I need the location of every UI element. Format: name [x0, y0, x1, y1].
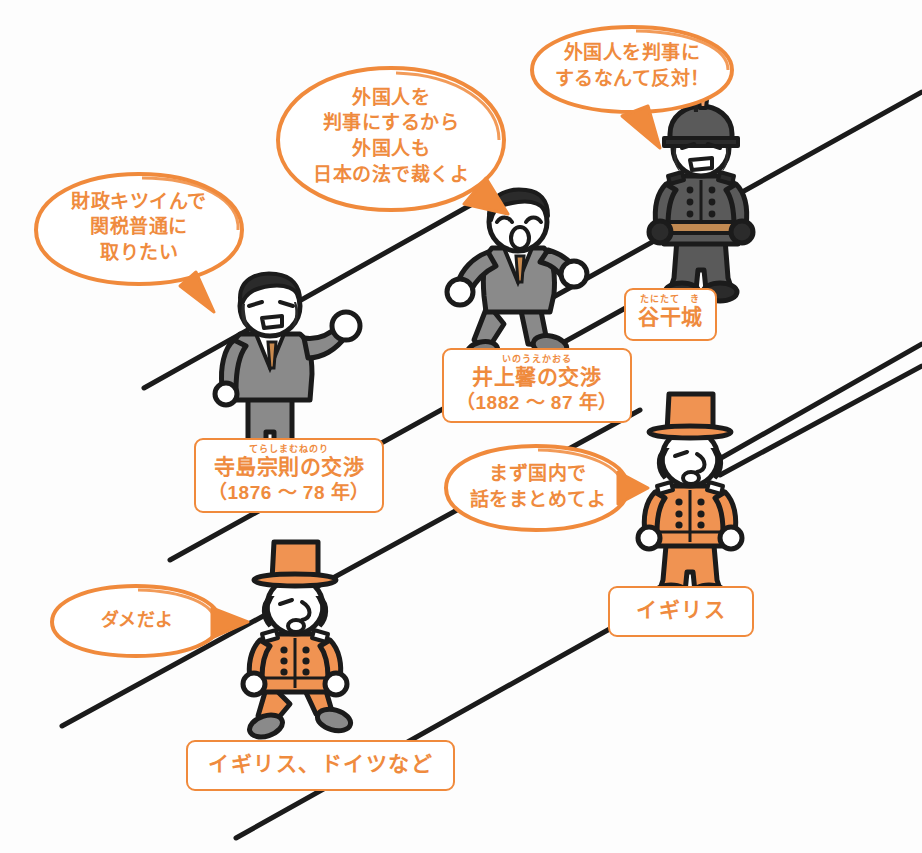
speech-bubble-dame-text: ダメだよ [95, 608, 180, 632]
label-terashima-furigana: てらしまむねのり [208, 445, 370, 454]
label-tani-main: 谷干城 [638, 305, 703, 330]
speech-bubble-tariff-text: 財政キツイんで 関税普通に 取りたい [65, 189, 213, 266]
speech-bubble-domestic-text: まず国内で 話をまとめてよ [464, 461, 613, 512]
label-terashima-main: 寺島宗則の交渉 [208, 455, 370, 480]
speech-bubble-oppose: 外国人を判事に するなんて反対！ [526, 22, 738, 110]
diagram-canvas: 財政キツイんで 関税普通に 取りたい 外国人を 判事にするから 外国人も 日本の… [0, 0, 922, 853]
speech-bubble-judge-text: 外国人を 判事にするから 外国人も 日本の法で裁くよ [307, 85, 475, 188]
figure-britain-germany [243, 542, 353, 741]
label-terashima: てらしまむねのり 寺島宗則の交渉 （1876 〜 78 年） [194, 438, 384, 513]
label-inoue-sub: （1882 〜 87 年） [456, 392, 618, 414]
label-igirisu: イギリス [608, 586, 754, 637]
label-igirisu-main: イギリス [636, 598, 726, 623]
label-inoue-furigana: いのうえかおる [456, 355, 618, 364]
label-tani-furigana: たにたて き [638, 295, 703, 304]
label-terashima-sub: （1876 〜 78 年） [208, 482, 370, 504]
speech-bubble-dame: ダメだよ [48, 582, 248, 658]
label-tani: たにたて き 谷干城 [624, 288, 717, 341]
speech-bubble-judge: 外国人を 判事にするから 外国人も 日本の法で裁くよ [272, 62, 510, 210]
label-inoue: いのうえかおる 井上馨の交渉 （1882 〜 87 年） [442, 348, 632, 423]
label-inoue-main: 井上馨の交渉 [456, 365, 618, 390]
speech-bubble-oppose-text: 外国人を判事に するなんて反対！ [549, 40, 716, 91]
label-igirisu-doitsu: イギリス、ドイツなど [186, 740, 455, 791]
speech-bubble-domestic: まず国内で 話をまとめてよ [442, 442, 648, 532]
label-igirisu-doitsu-main: イギリス、ドイツなど [208, 752, 433, 777]
figure-britain [638, 394, 742, 603]
speech-bubble-tariff: 財政キツイんで 関税普通に 取りたい [30, 168, 248, 286]
